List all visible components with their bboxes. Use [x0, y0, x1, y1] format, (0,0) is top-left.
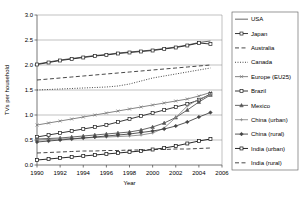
- legend-marker-1: [240, 32, 243, 35]
- legend-label-7: China (urban): [251, 117, 288, 123]
- x-tick-label: 1992: [53, 170, 67, 176]
- series-marker: [105, 124, 108, 127]
- series-marker: [163, 109, 166, 112]
- series-marker: [116, 52, 119, 55]
- legend-label-5: Brazil: [251, 88, 266, 94]
- series-marker: [82, 56, 85, 59]
- legend-label-3: Canada: [251, 59, 273, 65]
- series-marker: [47, 158, 50, 161]
- series-marker: [70, 58, 73, 61]
- x-tick-label: 1996: [100, 170, 114, 176]
- legend-label-1: Japan: [251, 31, 267, 37]
- line-chart: 0.00.51.01.52.02.53.01990199219941996199…: [0, 0, 300, 205]
- x-tick-label: 1998: [123, 170, 137, 176]
- y-tick-label: 0.0: [25, 162, 34, 168]
- series-marker: [93, 126, 96, 129]
- series-marker: [209, 43, 212, 46]
- series-marker: [82, 155, 85, 158]
- legend-marker-9: [240, 147, 243, 150]
- series-marker: [128, 118, 131, 121]
- x-tick-label: 2006: [215, 170, 229, 176]
- series-marker: [36, 63, 39, 66]
- series-marker: [151, 148, 154, 151]
- series-marker: [140, 115, 143, 118]
- x-tick-label: 1994: [77, 170, 91, 176]
- chart-container: 0.00.51.01.52.02.53.01990199219941996199…: [0, 0, 300, 205]
- y-tick-label: 0.5: [25, 137, 34, 143]
- x-tick-label: 2002: [169, 170, 183, 176]
- series-marker: [163, 48, 166, 51]
- x-tick-label: 1990: [30, 170, 44, 176]
- series-marker: [174, 106, 177, 109]
- x-tick-label: 2000: [146, 170, 160, 176]
- series-marker: [36, 159, 39, 162]
- series-marker: [151, 112, 154, 115]
- series-marker: [59, 59, 62, 62]
- legend-label-9: India (urban): [251, 146, 285, 152]
- series-marker: [105, 153, 108, 156]
- legend-label-10: India (rural): [251, 160, 282, 166]
- series-marker: [59, 132, 62, 135]
- series-marker: [70, 156, 73, 159]
- legend-label-2: Australia: [251, 45, 275, 51]
- series-marker: [70, 130, 73, 133]
- series-marker: [82, 128, 85, 131]
- series-marker: [59, 157, 62, 160]
- y-tick-label: 1.0: [25, 112, 34, 118]
- series-marker: [151, 49, 154, 52]
- series-marker: [209, 138, 212, 141]
- series-marker: [93, 55, 96, 58]
- x-axis-title: Year: [123, 180, 135, 186]
- y-tick-label: 3.0: [25, 12, 34, 18]
- series-marker: [116, 121, 119, 124]
- series-marker: [140, 50, 143, 53]
- series-marker: [128, 51, 131, 54]
- series-marker: [197, 42, 200, 45]
- legend-label-8: China (rural): [251, 131, 284, 137]
- legend-label-6: Mexico: [251, 103, 271, 109]
- series-marker: [105, 54, 108, 57]
- chart-svg: 0.00.51.01.52.02.53.01990199219941996199…: [0, 0, 300, 205]
- y-tick-label: 2.5: [25, 37, 34, 43]
- legend-label-0: USA: [251, 16, 263, 22]
- series-marker: [174, 46, 177, 49]
- series-marker: [47, 134, 50, 137]
- series-marker: [174, 145, 177, 148]
- series-marker: [93, 154, 96, 157]
- series-marker: [186, 44, 189, 47]
- series-marker: [186, 142, 189, 145]
- series-marker: [47, 61, 50, 64]
- legend-marker-5: [240, 90, 243, 93]
- x-tick-label: 2004: [192, 170, 206, 176]
- series-marker: [197, 140, 200, 143]
- legend-label-4: Europe (EU25): [251, 74, 291, 80]
- series-marker: [128, 151, 131, 154]
- y-axis-title: TVs per household: [4, 65, 10, 115]
- y-tick-label: 2.0: [25, 62, 34, 68]
- series-marker: [116, 152, 119, 155]
- y-tick-label: 1.5: [25, 87, 34, 93]
